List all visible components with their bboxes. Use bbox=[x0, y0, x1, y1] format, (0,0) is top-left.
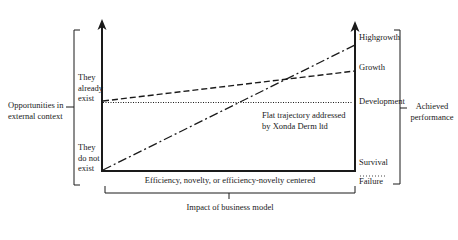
level-development: Development bbox=[359, 96, 405, 107]
they-do-not-exist-label: They do not exist bbox=[78, 142, 100, 174]
dashed-trajectory bbox=[103, 71, 355, 101]
bottom-brace-label: Efficiency, novelty, or efficiency-novel… bbox=[105, 175, 355, 186]
right-brace-label: Achieved performance bbox=[406, 101, 458, 122]
left-brace-label: Opportunities in external context bbox=[8, 100, 63, 121]
right-brace bbox=[393, 30, 407, 184]
bottom-brace bbox=[105, 186, 355, 199]
they-already-exist-label: They already exist bbox=[78, 72, 103, 104]
flat-trajectory-annotation: Flat trajectory addressed by Xonda Derm … bbox=[262, 110, 346, 131]
level-highgrowth: Highgrowth bbox=[359, 32, 400, 43]
level-survival: Survival bbox=[359, 157, 388, 168]
level-failure: Failure bbox=[359, 176, 383, 187]
dash-dot-trajectory bbox=[103, 45, 355, 170]
impact-of-business-model-label: Impact of business model bbox=[150, 202, 310, 213]
level-growth: Growth bbox=[359, 62, 385, 73]
